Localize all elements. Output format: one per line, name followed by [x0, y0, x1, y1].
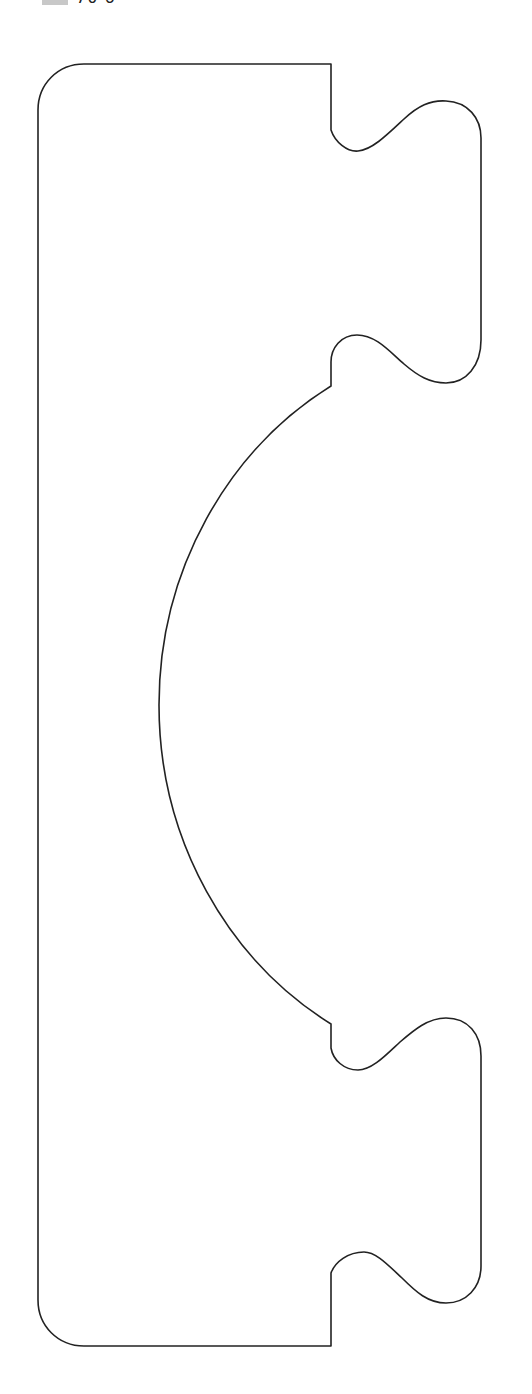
outline-path	[38, 64, 481, 1346]
cut-outline-diagram	[0, 0, 532, 1394]
